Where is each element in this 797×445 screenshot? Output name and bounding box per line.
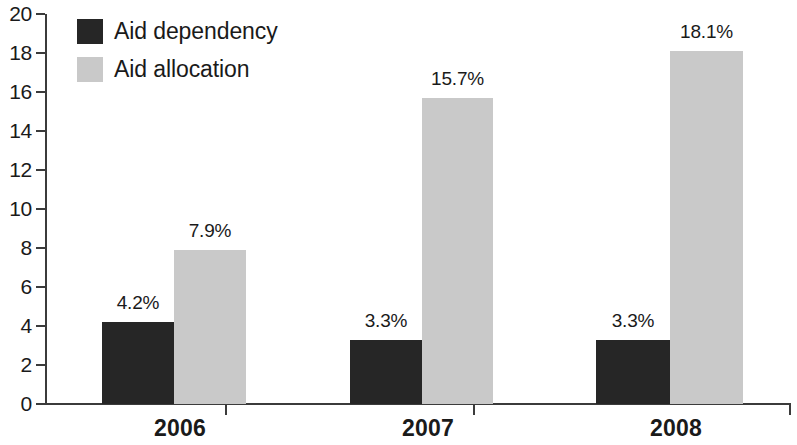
- legend-label: Aid allocation: [114, 57, 249, 82]
- dark-square-swatch: [77, 19, 103, 44]
- y-axis-tick-label: 16: [0, 81, 32, 102]
- y-axis-tick: [36, 91, 45, 93]
- y-axis-tick-label: 4: [0, 315, 32, 336]
- y-axis-tick-label: 6: [0, 276, 32, 297]
- bar-2007-aid-dependency: [350, 340, 422, 404]
- legend-label: Aid dependency: [114, 19, 278, 44]
- bar-value-label: 3.3%: [583, 311, 683, 330]
- y-axis-tick: [36, 208, 45, 210]
- chart-legend: Aid dependencyAid allocation: [77, 12, 278, 88]
- legend-item-aid-allocation: Aid allocation: [77, 50, 278, 88]
- y-axis-tick-label: 0: [0, 393, 32, 414]
- x-axis-label-2006: 2006: [110, 415, 250, 441]
- x-axis-label-2008: 2008: [606, 415, 746, 441]
- y-axis-tick: [36, 52, 45, 54]
- y-axis-tick: [36, 169, 45, 171]
- y-axis-tick-label: 14: [0, 120, 32, 141]
- bar-value-label: 7.9%: [160, 221, 260, 240]
- y-axis-tick-label: 20: [0, 3, 32, 24]
- y-axis-tick: [36, 325, 45, 327]
- legend-item-aid-dependency: Aid dependency: [77, 12, 278, 50]
- y-axis-line: [45, 14, 47, 405]
- y-axis-tick-label: 2: [0, 354, 32, 375]
- light-square-swatch: [77, 57, 103, 82]
- y-axis-tick: [36, 130, 45, 132]
- bar-value-label: 4.2%: [88, 293, 188, 312]
- y-axis-tick: [36, 403, 45, 405]
- y-axis-tick-label: 8: [0, 237, 32, 258]
- y-axis-tick: [36, 364, 45, 366]
- bar-2008-aid-allocation: [670, 51, 743, 404]
- bar-value-label: 15.7%: [408, 69, 508, 88]
- x-axis-separator-tick: [225, 405, 227, 415]
- bar-value-label: 18.1%: [657, 22, 757, 41]
- y-axis-tick-label: 10: [0, 198, 32, 219]
- y-axis-tick: [36, 247, 45, 249]
- bar-2008-aid-dependency: [596, 340, 670, 404]
- bar-chart: 02468101214161820 200620072008 4.2%7.9%3…: [0, 0, 797, 445]
- bar-2006-aid-allocation: [174, 250, 246, 404]
- bar-2007-aid-allocation: [422, 98, 493, 404]
- x-axis-separator-tick: [473, 405, 475, 415]
- y-axis-tick-label: 18: [0, 42, 32, 63]
- x-axis-end-tick: [789, 405, 791, 415]
- y-axis-tick-label: 12: [0, 159, 32, 180]
- y-axis-tick: [36, 286, 45, 288]
- bar-value-label: 3.3%: [336, 311, 436, 330]
- bar-2006-aid-dependency: [102, 322, 174, 404]
- y-axis-tick: [36, 13, 45, 15]
- x-axis-label-2007: 2007: [358, 415, 498, 441]
